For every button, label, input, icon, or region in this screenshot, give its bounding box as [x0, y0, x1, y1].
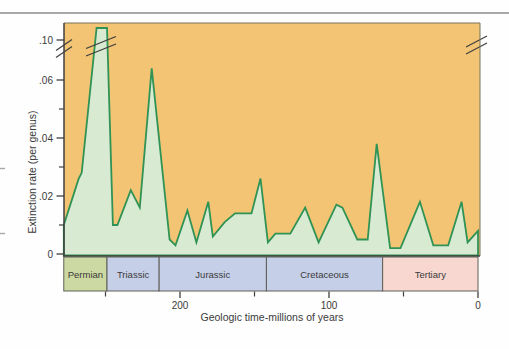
y-tick-label: .04 [39, 133, 53, 144]
y-axis-ticks: 0.02.04.06.10 [39, 35, 64, 260]
period-label: Jurassic [195, 269, 230, 280]
x-tick-label: 0 [475, 300, 481, 311]
geologic-period-bands: PermianTriassicJurassicCretaceousTertiar… [64, 257, 478, 291]
x-axis-title: Geologic time-millions of years [201, 311, 344, 323]
period-label: Permian [68, 269, 103, 280]
y-tick-label: .06 [39, 75, 53, 86]
period-label: Tertiary [415, 269, 446, 280]
x-tick-label: 100 [321, 300, 338, 311]
period-label: Cretaceous [300, 269, 349, 280]
page: 0.02.04.06.10 2001000 PermianTriassicJur… [0, 0, 509, 349]
y-tick-label: .02 [39, 191, 53, 202]
x-axis-ticks: 2001000 [106, 292, 482, 312]
extinction-rate-chart: 0.02.04.06.10 2001000 PermianTriassicJur… [0, 0, 509, 349]
x-tick-label: 200 [172, 300, 189, 311]
y-axis-title: Extinction rate (per genus) [26, 110, 38, 233]
y-tick-label: 0 [47, 249, 53, 260]
period-label: Triassic [117, 269, 150, 280]
y-tick-label: .10 [39, 35, 53, 46]
